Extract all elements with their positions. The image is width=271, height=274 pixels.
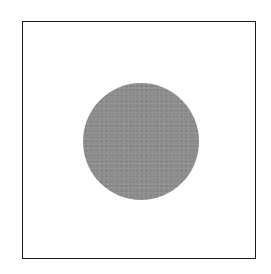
gray-circle [83,83,199,200]
